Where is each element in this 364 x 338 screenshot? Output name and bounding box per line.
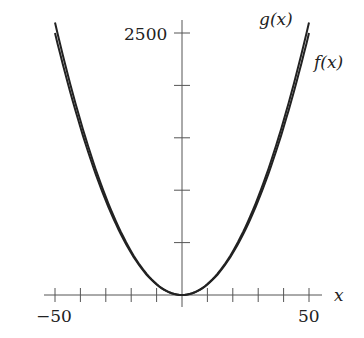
legend-f: f(x)	[312, 52, 343, 72]
x-tick-label-max: 50	[298, 306, 320, 326]
chart: 2500 −50 50 x g(x) f(x)	[0, 0, 364, 338]
y-tick-label-2500: 2500	[124, 24, 167, 44]
x-tick-label-min: −50	[36, 306, 72, 326]
x-axis-label: x	[334, 285, 344, 305]
legend-g: g(x)	[259, 9, 293, 29]
